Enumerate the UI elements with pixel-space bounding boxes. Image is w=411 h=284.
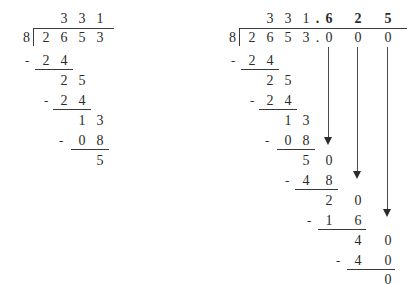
subtraction-rule	[71, 149, 109, 150]
quotient-digit: 3	[280, 11, 296, 27]
difference-digit: 1	[280, 113, 296, 129]
dividend-digit: 2	[244, 30, 260, 46]
subtraction-rule	[318, 229, 366, 230]
quotient-digit: 1	[92, 11, 108, 27]
subtrahend-digit: 8	[321, 173, 337, 189]
dividend-digit: 3	[92, 30, 108, 46]
quotient-digit: 3	[56, 11, 72, 27]
minus-sign: -	[44, 93, 54, 109]
minus-sign: -	[231, 53, 241, 69]
minus-sign: -	[265, 133, 275, 149]
divisor: 8	[16, 30, 30, 46]
division-vinculum	[239, 28, 407, 29]
remainder: 0	[380, 272, 396, 284]
dividend-digit: 2	[38, 30, 54, 46]
subtrahend-digit: 8	[298, 133, 314, 149]
subtrahend-digit: 0	[74, 133, 90, 149]
subtrahend-digit: 2	[244, 53, 260, 69]
dividend-digit: 6	[262, 30, 278, 46]
minus-sign: -	[336, 253, 346, 269]
subtrahend-digit: 4	[56, 53, 72, 69]
difference-digit: 3	[298, 113, 314, 129]
bring-down-arrow-2	[353, 47, 362, 179]
quotient-decimal-point: .	[314, 11, 321, 27]
dividend-digit: 3	[298, 30, 314, 46]
division-bracket	[33, 28, 34, 46]
dividend-decimal-zero: 0	[380, 30, 396, 46]
long-division-worksheet: 3 3 1 8 2 6 5 3 - 2 4 2 5 - 2 4 1 3 - 0 …	[0, 0, 411, 284]
subtrahend-digit: 4	[280, 93, 296, 109]
difference-digit: 2	[56, 73, 72, 89]
subtrahend-digit: 2	[38, 53, 54, 69]
remainder: 5	[92, 153, 108, 169]
subtrahend-digit: 4	[74, 93, 90, 109]
subtrahend-digit: 2	[56, 93, 72, 109]
subtraction-rule	[259, 109, 297, 110]
bring-down-arrow-3	[383, 47, 392, 217]
difference-digit: 2	[321, 193, 337, 209]
quotient-digit: 3	[74, 11, 90, 27]
subtrahend-digit: 2	[262, 93, 278, 109]
subtraction-rule	[347, 269, 395, 270]
subtrahend-digit: 0	[380, 253, 396, 269]
dividend-digit: 5	[74, 30, 90, 46]
subtrahend-digit: 4	[350, 253, 366, 269]
difference-digit: 5	[298, 153, 314, 169]
quotient-decimal-digit: 5	[380, 11, 396, 27]
quotient-digit: 1	[298, 11, 314, 27]
dividend-decimal-zero: 0	[321, 30, 337, 46]
difference-digit: 4	[350, 233, 366, 249]
difference-digit: 0	[380, 233, 396, 249]
subtraction-rule	[35, 69, 73, 70]
subtrahend-digit: 8	[92, 133, 108, 149]
subtrahend-digit: 4	[298, 173, 314, 189]
difference-digit: 3	[92, 113, 108, 129]
subtrahend-digit: 6	[350, 213, 366, 229]
difference-digit: 2	[262, 73, 278, 89]
dividend-decimal-point: .	[314, 30, 321, 46]
minus-sign: -	[59, 133, 69, 149]
minus-sign: -	[25, 53, 35, 69]
subtraction-rule	[277, 149, 315, 150]
minus-sign: -	[285, 173, 295, 189]
difference-digit: 0	[321, 153, 337, 169]
difference-digit: 0	[350, 193, 366, 209]
divisor: 8	[222, 30, 236, 46]
subtrahend-digit: 1	[321, 213, 337, 229]
subtrahend-digit: 4	[262, 53, 278, 69]
difference-digit: 5	[280, 73, 296, 89]
quotient-digit: 3	[262, 11, 278, 27]
dividend-digit: 6	[56, 30, 72, 46]
division-bracket	[239, 28, 240, 46]
bring-down-arrow-1	[324, 47, 333, 145]
minus-sign: -	[250, 93, 260, 109]
subtraction-rule	[241, 69, 279, 70]
difference-digit: 1	[74, 113, 90, 129]
division-vinculum	[33, 28, 114, 29]
quotient-decimal-digit: 2	[350, 11, 366, 27]
dividend-digit: 5	[280, 30, 296, 46]
subtraction-rule	[53, 109, 91, 110]
quotient-decimal-digit: 6	[321, 11, 337, 27]
subtraction-rule	[295, 189, 338, 190]
difference-digit: 5	[74, 73, 90, 89]
minus-sign: -	[307, 213, 317, 229]
dividend-decimal-zero: 0	[350, 30, 366, 46]
subtrahend-digit: 0	[280, 133, 296, 149]
